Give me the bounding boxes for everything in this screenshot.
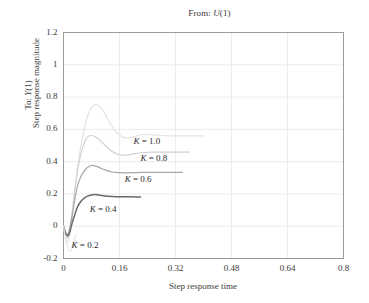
step-response-chart: From: U(1) 1.210.80.60.40.20-0.2 00.160.…: [0, 0, 369, 303]
x-tick-label: 0.8: [327, 263, 361, 273]
y-tick-label: 0.2: [26, 188, 58, 198]
x-axis-label: Step response time: [63, 281, 343, 291]
y-axis-label-secondary-suffix: (1): [23, 80, 33, 91]
x-tick-label: 0: [47, 263, 81, 273]
series-annotation: K = 0.2: [72, 240, 99, 250]
y-axis-label-secondary: To: Y(1): [23, 15, 33, 175]
x-tick-label: 0.16: [103, 263, 137, 273]
x-tick-label: 0.64: [271, 263, 305, 273]
annotation-value: = 0.2: [78, 240, 99, 250]
x-tick-label: 0.32: [159, 263, 193, 273]
y-tick-label: 0: [26, 220, 58, 230]
annotation-value: = 1.0: [140, 136, 161, 146]
annotation-value: = 0.6: [131, 174, 152, 184]
y-tick-label: -0.2: [26, 253, 58, 263]
series-line-1: [64, 135, 190, 238]
y-axis-label-secondary-variable: Y: [23, 91, 33, 96]
series-annotation: K = 0.4: [90, 204, 117, 214]
series-annotation: K = 0.8: [141, 153, 168, 163]
annotation-value: = 0.8: [147, 153, 168, 163]
series-annotation: K = 0.6: [125, 174, 152, 184]
x-tick-label: 0.48: [215, 263, 249, 273]
series-annotation: K = 1.0: [134, 136, 161, 146]
y-axis-label-secondary-prefix: To:: [23, 96, 33, 110]
annotation-value: = 0.4: [96, 204, 117, 214]
